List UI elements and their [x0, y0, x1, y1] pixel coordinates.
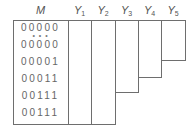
- header-m: M: [13, 4, 68, 16]
- header-y3: Y3: [115, 4, 138, 20]
- column-y1: [68, 20, 92, 125]
- header-y2-sub: 2: [105, 10, 109, 17]
- header-y5-sub: 5: [175, 10, 179, 17]
- header-y2-label: Y: [97, 4, 104, 16]
- m-row-4: 00011: [13, 74, 68, 84]
- m-row-3: 00001: [13, 57, 68, 67]
- column-y3: [115, 20, 139, 93]
- header-y4: Y4: [138, 4, 161, 20]
- header-y3-sub: 3: [128, 10, 132, 17]
- m-row-2: 00000: [13, 40, 68, 50]
- column-y5: [161, 20, 186, 61]
- m-row-5: 00111: [13, 91, 68, 101]
- header-y1: Y1: [68, 4, 91, 20]
- header-y5: Y5: [161, 4, 185, 20]
- column-y2: [91, 20, 116, 125]
- m-row-6: 00111: [13, 108, 68, 118]
- header-y4-sub: 4: [151, 10, 155, 17]
- header-y2: Y2: [91, 4, 115, 20]
- header-y1-sub: 1: [81, 10, 85, 17]
- header-y5-label: Y: [167, 4, 174, 16]
- column-y4: [138, 20, 162, 78]
